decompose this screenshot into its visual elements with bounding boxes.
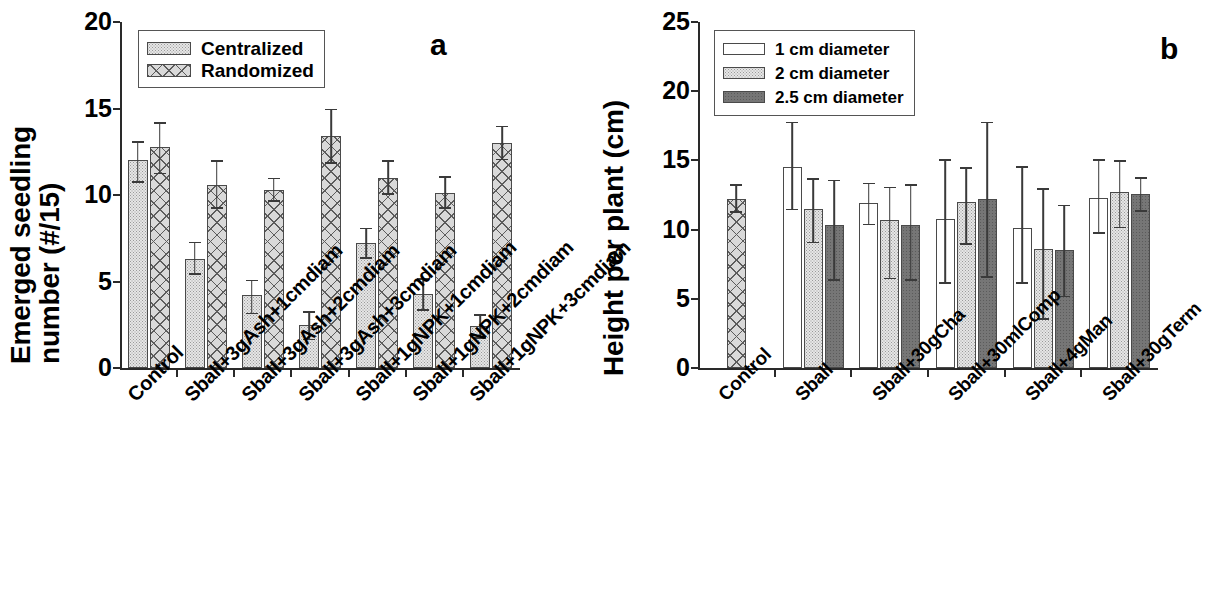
panel-b-category-labels: ControlSballSball+30gChaSball+30mlCompSb…	[590, 0, 1180, 607]
x-category-label: Sball+30gTerm	[1098, 298, 1205, 406]
panel-b-letter: b	[1160, 34, 1178, 64]
panel-a-letter: a	[430, 30, 447, 60]
panel-a-category-labels: ControlSball+3gAsh+1cmdiamSball+3gAsh+2c…	[0, 0, 590, 607]
panel-b: Height per plant (cm) 0510152025 1 cm di…	[590, 0, 1180, 607]
x-category-label: Control	[123, 341, 188, 406]
x-category-label: Control	[714, 344, 776, 406]
panel-a: Emerged seedling number (#/15) 05101520 …	[0, 0, 590, 607]
x-category-label: Sball	[791, 359, 838, 406]
